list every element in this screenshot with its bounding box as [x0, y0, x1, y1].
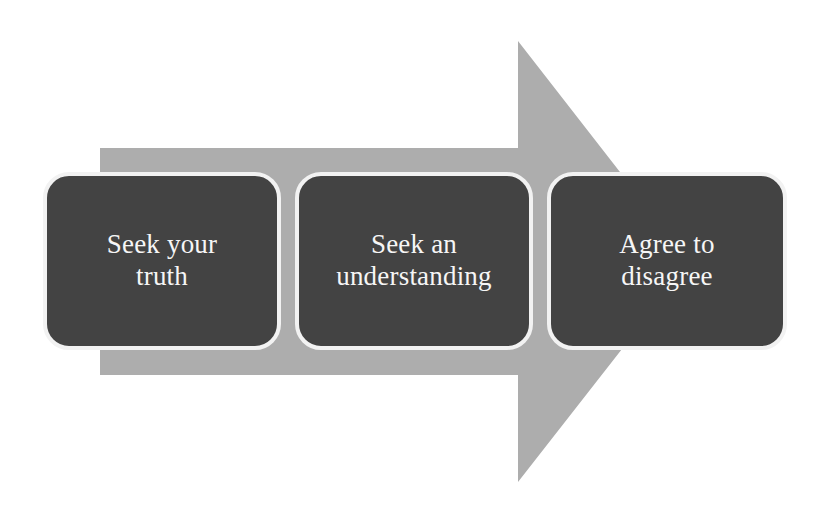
step-box-label: Seek an understanding [326, 229, 502, 293]
step-box-label: Agree to disagree [609, 229, 724, 293]
step-box-row: Seek your truth Seek an understanding Ag… [43, 172, 787, 350]
step-box-agree-to-disagree[interactable]: Agree to disagree [547, 172, 787, 350]
step-box-label: Seek your truth [97, 229, 228, 293]
step-box-seek-your-truth[interactable]: Seek your truth [43, 172, 281, 350]
step-box-seek-an-understanding[interactable]: Seek an understanding [295, 172, 533, 350]
process-diagram: Seek your truth Seek an understanding Ag… [0, 0, 827, 522]
